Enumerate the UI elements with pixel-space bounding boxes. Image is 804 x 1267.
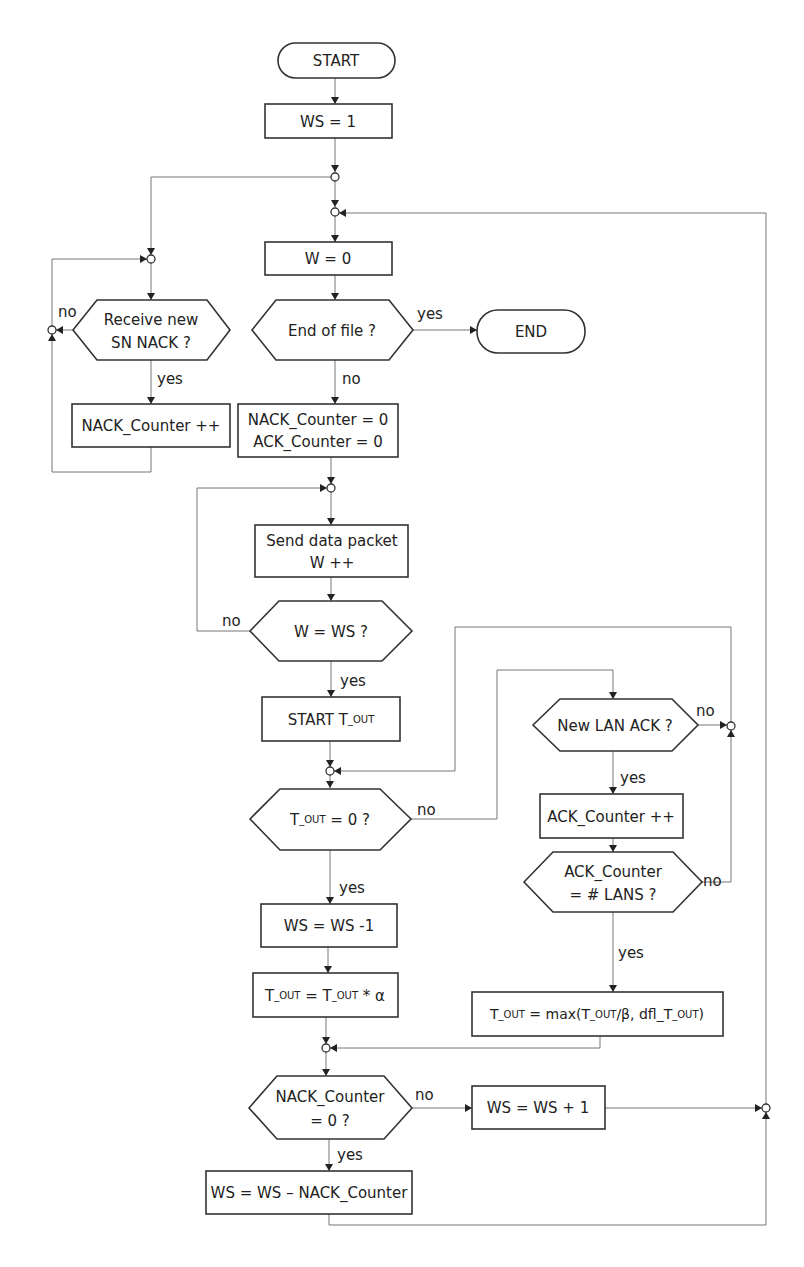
w-equals-ws-no-label: no (222, 612, 241, 630)
w-equals-ws-label: W = WS ? (294, 623, 368, 641)
w-equals-ws-yes-label: yes (340, 672, 366, 690)
ack-equals-lans-decision: ACK_Counter = # LANS ? (524, 852, 702, 912)
new-lan-ack-label: New LAN ACK ? (557, 717, 672, 735)
new-lan-ack-decision: New LAN ACK ? (533, 699, 698, 751)
timeout-zero-yes-label: yes (339, 879, 365, 897)
eof-no-label: no (342, 370, 361, 388)
ws-decrement-process: WS = WS -1 (261, 904, 397, 947)
eof-label: End of file ? (288, 322, 376, 340)
merge-point (331, 208, 339, 216)
merge-point (727, 722, 735, 730)
timeout-multiply-process: T_OUT = T_OUT * α (253, 973, 398, 1017)
ws-increment-process: WS = WS + 1 (472, 1086, 605, 1129)
ws-subtract-nack-label: WS = WS – NACK_Counter (211, 1184, 409, 1203)
receive-nack-no-label: no (58, 303, 77, 321)
ws-init-process: WS = 1 (265, 104, 392, 138)
nack-increment-label: NACK_Counter ++ (82, 417, 221, 436)
timeout-zero-no-label: no (417, 801, 436, 819)
new-lan-ack-yes-label: yes (620, 769, 646, 787)
receive-nack-decision: Receive new SN NACK ? (73, 300, 230, 360)
w-reset-label: W = 0 (305, 250, 351, 268)
timeout-max-label: T_OUT = max(T_OUT/β, dfl_T_OUT) (489, 1006, 704, 1022)
receive-nack-label-1: Receive new (104, 311, 199, 329)
receive-nack-yes-label: yes (157, 370, 183, 388)
send-packet-label-1: Send data packet (266, 532, 397, 550)
merge-point (322, 1044, 330, 1052)
w-reset-process: W = 0 (265, 242, 392, 275)
eof-yes-label: yes (417, 305, 443, 323)
nack-zero-decision: NACK_Counter = 0 ? (249, 1076, 412, 1139)
merge-point (48, 326, 56, 334)
timeout-zero-decision: T_OUT = 0 ? (250, 789, 411, 850)
merge-point (327, 484, 335, 492)
ack-equals-lans-yes-label: yes (618, 944, 644, 962)
eof-decision: End of file ? (252, 300, 413, 360)
timeout-max-process: T_OUT = max(T_OUT/β, dfl_T_OUT) (472, 992, 723, 1036)
connectors (52, 78, 766, 1225)
ack-increment-process: ACK_Counter ++ (540, 794, 683, 838)
w-equals-ws-decision: W = WS ? (250, 601, 412, 661)
receive-nack-label-2: SN NACK ? (111, 334, 191, 352)
send-packet-process: Send data packet W ++ (255, 525, 408, 577)
merge-point (147, 255, 155, 263)
new-lan-ack-no-label: no (696, 702, 715, 720)
ws-subtract-nack-process: WS = WS – NACK_Counter (206, 1171, 412, 1214)
nack-increment-process: NACK_Counter ++ (72, 404, 230, 447)
end-terminator: END (477, 310, 585, 353)
merge-point (331, 173, 339, 181)
end-label: END (515, 323, 547, 341)
nack-zero-label-2: = 0 ? (310, 1112, 350, 1130)
counters-reset-label-1: NACK_Counter = 0 (248, 411, 389, 430)
merge-point (762, 1104, 770, 1112)
nack-zero-label-1: NACK_Counter (276, 1088, 386, 1107)
counters-reset-process: NACK_Counter = 0 ACK_Counter = 0 (238, 404, 398, 457)
nack-zero-yes-label: yes (337, 1146, 363, 1164)
flowchart: START WS = 1 W = 0 End of file ? END Rec… (0, 0, 804, 1267)
start-terminator: START (278, 43, 395, 78)
start-label: START (313, 52, 360, 70)
ack-equals-lans-label-2: = # LANS ? (569, 886, 656, 904)
send-packet-label-2: W ++ (310, 554, 355, 572)
ws-increment-label: WS = WS + 1 (487, 1099, 589, 1117)
ack-equals-lans-no-label: no (703, 872, 722, 890)
ack-increment-label: ACK_Counter ++ (547, 808, 675, 827)
ws-decrement-label: WS = WS -1 (284, 917, 375, 935)
merge-point (326, 767, 334, 775)
ack-equals-lans-label-1: ACK_Counter (564, 863, 663, 882)
start-timeout-process: START T_OUT (262, 697, 400, 741)
counters-reset-label-2: ACK_Counter = 0 (253, 433, 382, 452)
nack-zero-no-label: no (415, 1086, 434, 1104)
ws-init-label: WS = 1 (300, 113, 356, 131)
